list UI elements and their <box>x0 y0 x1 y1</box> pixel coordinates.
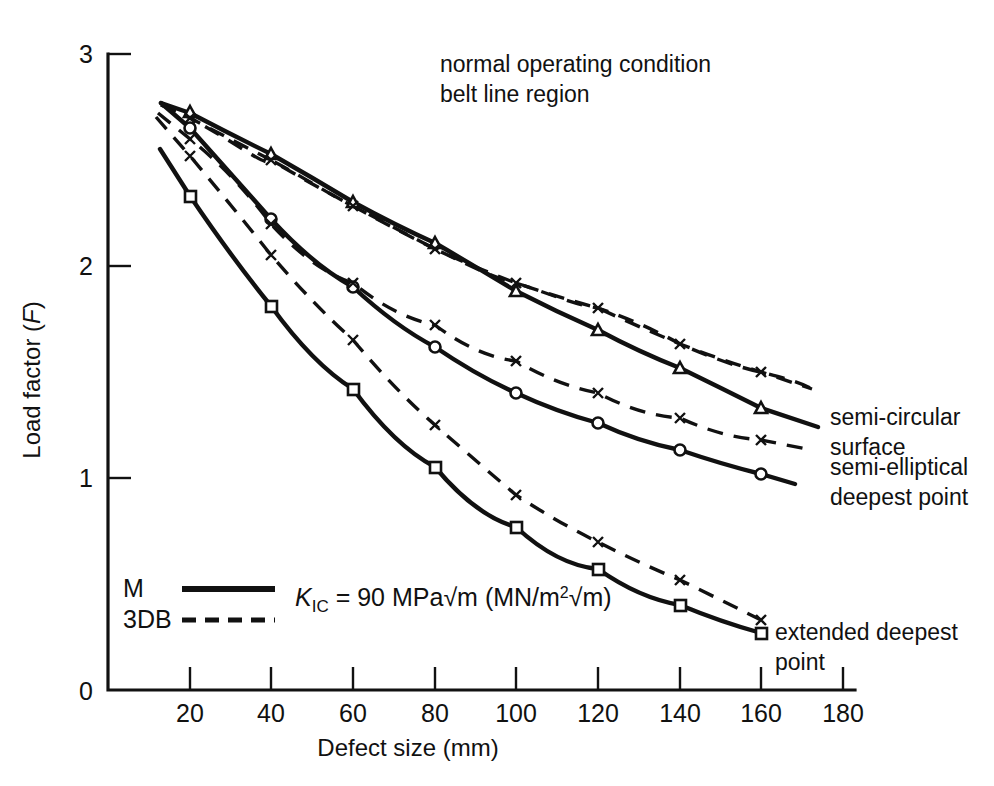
y-axis-title-plain: Load factor ( <box>18 324 45 459</box>
curve-3db-semi-elliptical-deepest-point <box>158 113 812 450</box>
annotation-semi-elliptical-line1: semi-elliptical <box>830 454 968 480</box>
annotation-semi-circular-line1: semi-circular <box>830 404 961 430</box>
x-tick-label-20: 20 <box>176 699 204 727</box>
y-axis-title-italic: F <box>18 308 45 324</box>
curves-group <box>156 103 818 633</box>
chart-svg: 3 2 1 0 20 40 60 80 100 120 140 160 180 … <box>0 0 994 786</box>
legend-formula-value: 90 MPa <box>357 583 443 611</box>
legend-formula-paren-close: ) <box>603 583 611 611</box>
x-tick-label-40: 40 <box>257 699 285 727</box>
legend: M 3DB KIC = 90 MPa√m (MN/m2√m) <box>123 574 612 633</box>
legend-label-3db: 3DB <box>123 605 172 633</box>
chart-figure: 3 2 1 0 20 40 60 80 100 120 140 160 180 … <box>0 0 994 786</box>
legend-formula: KIC = 90 MPa√m (MN/m2√m) <box>295 583 612 616</box>
curve-annotations: semi-circular surface semi-elliptical de… <box>775 404 969 675</box>
plot-notes: normal operating condition belt line reg… <box>440 51 711 107</box>
y-axis-title: Load factor (F) <box>18 301 45 458</box>
x-axis-title: Defect size (mm) <box>317 734 498 761</box>
note-line-1: normal operating condition <box>440 51 711 77</box>
curve-m-semi-elliptical-deepest-point <box>161 103 795 484</box>
y-axis-title-close: ) <box>18 301 45 309</box>
legend-formula-symbol: K <box>295 583 313 611</box>
legend-formula-subscript: IC <box>312 597 329 616</box>
annotation-semi-elliptical-line2: deepest point <box>830 484 969 510</box>
y-tick-label-2: 2 <box>79 252 93 280</box>
x-tick-label-180: 180 <box>822 699 864 727</box>
legend-label-m: M <box>123 574 144 602</box>
marker-set-square <box>185 191 767 639</box>
legend-formula-root1: √m <box>443 583 478 611</box>
legend-formula-paren-open: (MN/m <box>485 583 560 611</box>
x-tick-label-60: 60 <box>339 699 367 727</box>
y-tick-label-3: 3 <box>79 40 93 68</box>
x-tick-label-140: 140 <box>659 699 701 727</box>
x-tick-label-80: 80 <box>421 699 449 727</box>
legend-formula-root2: √m <box>569 583 604 611</box>
axes-group: 3 2 1 0 20 40 60 80 100 120 140 160 180 … <box>18 40 864 761</box>
x-axis-ticks <box>190 667 843 690</box>
legend-formula-exponent: 2 <box>560 584 569 601</box>
x-tick-label-100: 100 <box>495 699 537 727</box>
y-tick-label-1: 1 <box>79 464 93 492</box>
x-tick-label-120: 120 <box>577 699 619 727</box>
annotation-extended-line2: point <box>775 649 825 675</box>
y-tick-label-0: 0 <box>79 677 93 705</box>
legend-formula-equals: = <box>336 583 351 611</box>
x-tick-label-160: 160 <box>740 699 782 727</box>
marker-set-triangle <box>184 106 767 413</box>
note-line-2: belt line region <box>440 81 590 107</box>
y-axis-ticks <box>108 54 131 478</box>
curve-m-extended-deepest-point <box>160 149 761 633</box>
annotation-extended-line1: extended deepest <box>775 619 958 645</box>
